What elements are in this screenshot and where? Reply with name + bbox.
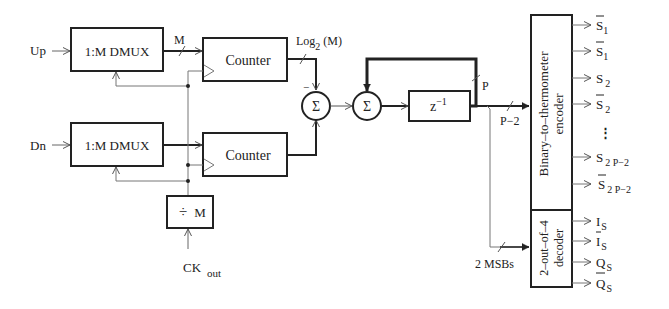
msbs-label: 2 MSBs (475, 257, 514, 271)
sum2-node: Σ (353, 92, 381, 120)
dmux-width-label: M (174, 33, 185, 47)
counter-dn-label: Counter (225, 148, 270, 163)
divide-icon: ÷ (179, 204, 187, 220)
svg-text:S2: S2 (596, 97, 610, 115)
feedback-width-label: P (482, 79, 489, 93)
encoder-output: S2 P−2 (572, 175, 631, 195)
dn-label: Dn (30, 138, 46, 153)
svg-text:QS: QS (596, 255, 612, 273)
dmux-up-block: 1:M DMUX (71, 28, 163, 71)
divider-block: ÷ M (167, 196, 213, 228)
bus-counter-up-to-sum (287, 59, 316, 90)
decoder-label-line1: 2–out–of–4 (537, 220, 551, 275)
ellipsis-icon: ⋮ (599, 125, 612, 140)
block-diagram: Up Dn 1:M DMUX 1:M DMUX M Counter Counte… (0, 0, 669, 309)
svg-text:S2 P−2: S2 P−2 (598, 177, 631, 195)
counter-width-label: Log2 (M) (296, 34, 342, 52)
counter-dn-block: Counter (203, 133, 287, 176)
encoder-label-line1: Binary–to–thermometer (536, 51, 551, 177)
decoder-label-line2: decoder (552, 229, 566, 267)
decoder-output: IS (572, 232, 607, 252)
counter-up-label: Counter (225, 53, 270, 68)
svg-text:QS: QS (596, 276, 612, 294)
decoder-block: 2–out–of–4 decoder (531, 210, 572, 287)
sigma-icon: Σ (363, 99, 371, 114)
input-up: Up (30, 43, 70, 58)
junction-dot (186, 84, 190, 88)
svg-text:S1: S1 (596, 44, 608, 62)
sigma-icon: Σ (312, 99, 320, 114)
svg-text:IS: IS (596, 214, 607, 232)
up-label: Up (30, 43, 46, 58)
encoder-output: S2 (572, 95, 610, 115)
bus-counter-dn-to-sum (287, 120, 316, 155)
junction-dot (186, 163, 190, 167)
clock-label: CK (183, 260, 202, 275)
minus-sign: − (303, 81, 309, 93)
encoder-block: Binary–to–thermometer encoder (531, 15, 572, 213)
encoder-outputs: S1 S1 S2 S2 ⋮ S2 P−2 S2 P−2 (572, 16, 631, 195)
decoder-outputs: IS IS QS QS (572, 214, 612, 294)
encoder-output: S1 (572, 16, 608, 36)
encoder-output: S2 P−2 (572, 150, 629, 168)
clock-subscript: out (207, 267, 221, 279)
dmux-dn-label: 1:M DMUX (85, 138, 150, 153)
divider-m-label: M (194, 205, 206, 220)
decoder-output: QS (572, 273, 612, 294)
encoder-output: S2 (572, 71, 610, 89)
decoder-output: IS (572, 214, 607, 232)
svg-text:S1: S1 (596, 18, 608, 36)
encoder-label-line2: encoder (551, 93, 566, 135)
dmux-dn-block: 1:M DMUX (71, 123, 163, 166)
dmux-up-label: 1:M DMUX (85, 44, 150, 59)
counter-up-block: Counter (203, 38, 287, 81)
svg-text:IS: IS (596, 234, 607, 252)
junction-dot (186, 179, 190, 183)
input-dn: Dn (30, 138, 70, 153)
decoder-output: QS (572, 255, 612, 273)
svg-text:S2 P−2: S2 P−2 (596, 150, 629, 168)
delay-block: z−1 (409, 91, 470, 121)
encoder-output: S1 (572, 42, 608, 62)
encoder-width-label: P−2 (500, 114, 519, 128)
sum1-node: Σ (302, 92, 330, 120)
svg-text:S2: S2 (596, 71, 610, 89)
